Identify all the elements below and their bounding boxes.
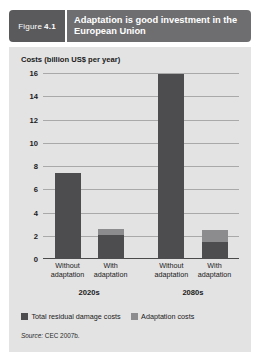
legend-label: Total residual damage costs — [32, 312, 121, 321]
y-axis-tick-label: 8 — [34, 162, 38, 171]
y-axis-tick-label: 4 — [34, 208, 38, 217]
gridline — [43, 120, 239, 121]
source-prefix: Source: — [21, 332, 43, 339]
x-axis-category-label: Withadaptation — [94, 262, 128, 279]
gridline — [43, 143, 239, 144]
bar-segment-damage — [202, 242, 228, 259]
y-axis-tick-label: 6 — [34, 185, 38, 194]
legend-swatch — [21, 313, 28, 320]
x-axis-group-label: 2020s — [78, 288, 99, 297]
bar — [55, 173, 81, 259]
figure-title: Adaptation is good investment in the Eur… — [74, 15, 244, 38]
x-axis-group-label: 2080s — [182, 288, 203, 297]
bar-segment-damage — [98, 235, 124, 259]
bar — [158, 74, 184, 259]
x-axis-category-label: Withadaptation — [198, 262, 232, 279]
gridline — [43, 166, 239, 167]
bar — [202, 230, 228, 259]
figure-source: Source: CEC 2007b. — [21, 332, 80, 339]
bar-segment-adaptation — [202, 230, 228, 242]
x-axis-group-labels: 2020s2080s — [43, 288, 239, 302]
chart-legend: Total residual damage costsAdaptation co… — [21, 312, 194, 321]
figure-label: Figure — [18, 22, 42, 31]
y-axis-title: Costs (billion US$ per year) — [21, 55, 120, 64]
x-axis-category-label: Withoutadaptation — [155, 262, 189, 279]
y-axis-tick-label: 16 — [30, 69, 38, 78]
bar-segment-damage — [55, 173, 81, 259]
gridline — [43, 73, 239, 74]
legend-item: Adaptation costs — [131, 312, 195, 321]
gridline — [43, 96, 239, 97]
y-axis-tick-label: 10 — [30, 138, 38, 147]
x-axis-category-label: Withoutadaptation — [51, 262, 85, 279]
x-axis-category-labels: WithoutadaptationWithadaptationWithoutad… — [43, 262, 239, 288]
legend-label: Adaptation costs — [141, 312, 194, 321]
y-axis-tick-label: 14 — [30, 92, 38, 101]
y-axis-tick-label: 2 — [34, 231, 38, 240]
figure-number-badge: Figure 4.1 — [9, 10, 65, 42]
figure-title-bar: Adaptation is good investment in the Eur… — [65, 10, 251, 42]
y-axis-tick-label: 12 — [30, 115, 38, 124]
figure-number: 4.1 — [44, 22, 56, 31]
bar-segment-damage — [158, 74, 184, 259]
bar — [98, 229, 124, 259]
chart-panel: Costs (billion US$ per year) 02468101214… — [9, 47, 251, 352]
figure-header: Figure 4.1 Adaptation is good investment… — [9, 10, 251, 42]
legend-item: Total residual damage costs — [21, 312, 121, 321]
source-text: CEC 2007b. — [45, 332, 80, 339]
legend-swatch — [131, 313, 138, 320]
figure-container: Figure 4.1 Adaptation is good investment… — [0, 0, 259, 361]
y-axis-tick-label: 0 — [34, 255, 38, 264]
plot-area: 0246810121416 — [43, 73, 239, 259]
